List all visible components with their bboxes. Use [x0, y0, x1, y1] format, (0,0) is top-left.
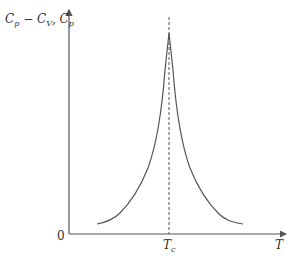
tc-sub: c	[171, 245, 175, 254]
y-label-c: C	[5, 12, 14, 26]
chart-canvas	[0, 0, 298, 259]
y-label-comma: , C	[52, 12, 69, 26]
y-axis-label: Cp − CV, Cp	[5, 12, 74, 28]
y-label-minus: − C	[19, 12, 46, 26]
curve	[97, 33, 243, 224]
x-axis-label: T	[275, 238, 283, 252]
origin-label: 0	[57, 229, 65, 243]
y-label-sub: p	[69, 19, 74, 28]
tc-main: T	[163, 238, 171, 252]
tc-label: Tc	[163, 238, 176, 254]
